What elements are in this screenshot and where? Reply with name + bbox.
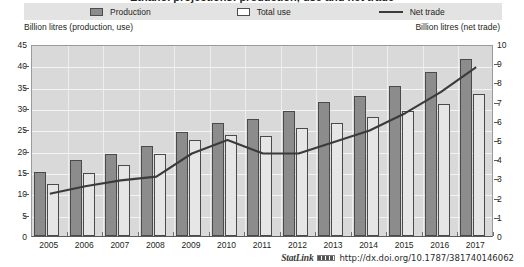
x-axis-label: 2010 bbox=[206, 240, 246, 250]
y2-axis-tick-mark bbox=[494, 64, 499, 65]
y2-axis-tick-label: 9 bbox=[497, 60, 517, 68]
statlink-label: StatLink bbox=[281, 253, 313, 263]
filled-square-swatch-icon bbox=[90, 8, 103, 16]
legend-item-total-use: Total use bbox=[237, 3, 291, 20]
x-axis-label: 2017 bbox=[455, 240, 495, 250]
y2-axis-tick-label: 1 bbox=[497, 214, 517, 222]
y2-axis-tick-mark bbox=[494, 218, 499, 219]
line-swatch-icon bbox=[379, 11, 403, 13]
plot-area bbox=[31, 45, 493, 237]
y2-axis-tick-label: 6 bbox=[497, 118, 517, 126]
y2-axis-tick-mark bbox=[494, 83, 499, 84]
y2-axis-tick-label: 2 bbox=[497, 195, 517, 203]
y-axis-tick-mark bbox=[24, 88, 29, 89]
x-axis-label: 2011 bbox=[242, 240, 282, 250]
y-axis-tick-mark bbox=[24, 66, 29, 67]
y-axis-tick-mark bbox=[24, 216, 29, 217]
y2-axis-tick-label: 5 bbox=[497, 137, 517, 145]
y2-axis-tick-mark bbox=[494, 199, 499, 200]
y2-axis-tick-mark bbox=[494, 160, 499, 161]
x-axis-label: 2008 bbox=[135, 240, 175, 250]
net-trade-polyline bbox=[50, 67, 476, 194]
x-axis-label: 2016 bbox=[420, 240, 460, 250]
x-axis-label: 2012 bbox=[278, 240, 318, 250]
right-axis-unit-caption: Billion litres (net trade) bbox=[415, 22, 500, 32]
open-square-swatch-icon bbox=[237, 8, 250, 16]
y-axis-tick-mark bbox=[24, 152, 29, 153]
x-axis-label: 2006 bbox=[64, 240, 104, 250]
y-axis-tick-mark bbox=[24, 194, 29, 195]
legend-label-total-use: Total use bbox=[257, 7, 291, 17]
barcode-icon bbox=[317, 255, 335, 261]
y2-axis-tick-mark bbox=[494, 103, 499, 104]
x-axis-label: 2014 bbox=[349, 240, 389, 250]
legend-item-net-trade: Net trade bbox=[379, 3, 445, 20]
y2-axis-tick-mark bbox=[494, 179, 499, 180]
y-axis-tick-mark bbox=[24, 130, 29, 131]
x-axis-label: 2009 bbox=[171, 240, 211, 250]
ethanol-projections-figure: Ethanol projections: production, use and… bbox=[0, 0, 524, 267]
chart-legend: Production Total use Net trade bbox=[24, 3, 502, 20]
y-axis-tick-mark bbox=[24, 173, 29, 174]
y-axis-tick-label: 0 bbox=[7, 233, 27, 241]
x-axis-labels: 2005200620072008200920102011201220132014… bbox=[31, 240, 493, 252]
y2-axis-tick-label: 10 bbox=[497, 41, 517, 49]
y2-axis-tick-mark bbox=[494, 122, 499, 123]
y2-axis-tick-label: 4 bbox=[497, 156, 517, 164]
y2-axis-tick-label: 3 bbox=[497, 175, 517, 183]
x-axis-label: 2005 bbox=[29, 240, 69, 250]
y2-axis-tick-label: 0 bbox=[497, 233, 517, 241]
legend-label-production: Production bbox=[110, 7, 151, 17]
x-axis-label: 2007 bbox=[100, 240, 140, 250]
statlink-footer[interactable]: StatLink http://dx.doi.org/10.1787/38174… bbox=[281, 252, 514, 264]
y-axis-tick-mark bbox=[24, 109, 29, 110]
legend-item-production: Production bbox=[90, 3, 151, 20]
x-axis-label: 2015 bbox=[384, 240, 424, 250]
x-axis-label: 2013 bbox=[313, 240, 353, 250]
left-axis-unit-caption: Billion litres (production, use) bbox=[24, 22, 133, 32]
y2-axis-tick-mark bbox=[494, 141, 499, 142]
statlink-url[interactable]: http://dx.doi.org/10.1787/381740146062 bbox=[339, 253, 514, 263]
y2-axis-tick-label: 8 bbox=[497, 79, 517, 87]
y-axis-tick-label: 45 bbox=[7, 41, 27, 49]
y2-axis-tick-label: 7 bbox=[497, 99, 517, 107]
net-trade-line bbox=[32, 46, 494, 238]
legend-label-net-trade: Net trade bbox=[410, 7, 445, 17]
